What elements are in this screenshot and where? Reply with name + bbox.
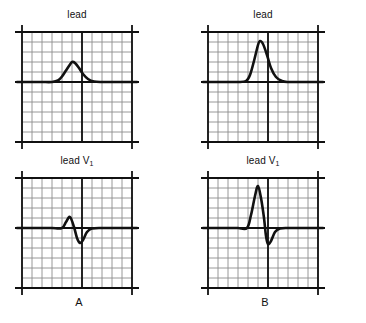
lead-label-subscript: 1	[275, 160, 279, 167]
ecg-panel-a-lead-v1: lead V1	[13, 155, 141, 297]
grid-minor-lines	[22, 178, 132, 288]
lead-label-text: lead	[67, 9, 86, 20]
group-label-b: B	[208, 296, 322, 309]
grid-minor-lines	[208, 32, 318, 142]
ecg-figure: leadlead V1leadlead V1AB	[0, 0, 366, 323]
lead-label-b-lead-ii: lead	[199, 9, 327, 21]
ecg-trace-b-lead-ii	[208, 41, 318, 82]
ecg-panel-b-lead-ii: lead	[199, 9, 327, 151]
ecg-trace-b-lead-v1	[208, 186, 318, 244]
grid-major-lines	[15, 25, 139, 149]
lead-label-a-lead-ii: lead	[13, 9, 141, 21]
lead-label-text: lead V	[61, 155, 90, 166]
group-label-a: A	[22, 296, 136, 309]
ecg-grid-a-lead-ii	[13, 23, 141, 151]
ecg-panel-a-lead-ii: lead	[13, 9, 141, 151]
lead-label-text: lead	[253, 9, 272, 20]
ecg-grid-b-lead-v1	[199, 169, 327, 297]
ecg-grid-b-lead-ii	[199, 23, 327, 151]
grid-minor-lines	[208, 178, 318, 288]
lead-label-subscript: 1	[89, 160, 93, 167]
grid-major-lines	[15, 171, 139, 295]
lead-label-a-lead-v1: lead V1	[13, 155, 141, 168]
ecg-grid-a-lead-v1	[13, 169, 141, 297]
grid-major-lines	[201, 171, 325, 295]
lead-label-text: lead V	[247, 155, 276, 166]
grid-minor-lines	[22, 32, 132, 142]
lead-label-b-lead-v1: lead V1	[199, 155, 327, 168]
ecg-panel-b-lead-v1: lead V1	[199, 155, 327, 297]
ecg-trace-a-lead-v1	[22, 217, 132, 243]
